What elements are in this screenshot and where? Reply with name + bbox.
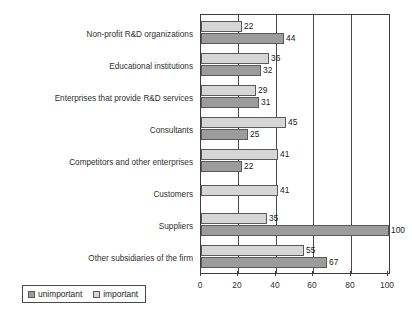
x-tick bbox=[350, 271, 351, 276]
bar-value-important: 55 bbox=[304, 245, 315, 256]
bar-value-important: 36 bbox=[269, 53, 280, 64]
legend-item-unimportant[interactable]: unimportant bbox=[28, 289, 82, 299]
bar-unimportant[interactable] bbox=[201, 65, 261, 76]
bar-value-unimportant: 100 bbox=[389, 225, 405, 236]
cut-off-caption-remnant bbox=[4, 316, 408, 322]
category-axis: Non-profit R&D organizations Educational… bbox=[0, 14, 197, 272]
category-label: Consultants bbox=[150, 126, 193, 136]
category-label: Non-profit R&D organizations bbox=[87, 30, 194, 40]
legend-label: important bbox=[103, 289, 138, 299]
bar-value-unimportant: 22 bbox=[242, 161, 253, 172]
bar-important[interactable] bbox=[201, 117, 286, 128]
category-label: Competitors and other enterprises bbox=[69, 158, 193, 168]
category-label: Suppliers bbox=[159, 222, 193, 232]
x-tick bbox=[312, 271, 313, 276]
x-tick-label: 40 bbox=[270, 280, 279, 290]
bar-unimportant[interactable] bbox=[201, 33, 284, 44]
bar-value-important: 22 bbox=[242, 21, 253, 32]
bar-unimportant[interactable] bbox=[201, 129, 248, 140]
bar-important[interactable] bbox=[201, 85, 256, 96]
light-gray-swatch-icon bbox=[93, 291, 100, 298]
bar-chart: Non-profit R&D organizations Educational… bbox=[0, 0, 412, 326]
bar-value-unimportant: 67 bbox=[327, 257, 338, 268]
category-label: Educational institutions bbox=[109, 62, 193, 72]
category-label: Other subsidiaries of the firm bbox=[88, 254, 193, 264]
x-axis-line bbox=[200, 273, 388, 274]
category-label: Customers bbox=[153, 190, 193, 200]
bar-value-unimportant: 32 bbox=[261, 65, 272, 76]
dark-gray-swatch-icon bbox=[28, 291, 35, 298]
legend-label: unimportant bbox=[38, 289, 82, 299]
bar-unimportant[interactable] bbox=[201, 257, 327, 268]
bar-unimportant[interactable] bbox=[201, 225, 389, 236]
x-tick bbox=[387, 271, 388, 276]
bar-value-unimportant: 25 bbox=[248, 129, 259, 140]
bar-value-unimportant: 44 bbox=[284, 33, 295, 44]
legend-item-important[interactable]: important bbox=[93, 289, 138, 299]
plot-area: 22 44 36 32 29 31 45 25 41 22 bbox=[200, 14, 390, 274]
bar-unimportant[interactable] bbox=[201, 97, 259, 108]
bar-value-important: 41 bbox=[278, 185, 289, 196]
bar-value-important: 35 bbox=[267, 213, 278, 224]
x-tick-label: 80 bbox=[345, 280, 354, 290]
bar-value-unimportant: 31 bbox=[259, 97, 270, 108]
x-tick-label: 20 bbox=[232, 280, 241, 290]
bar-important[interactable] bbox=[201, 149, 278, 160]
category-label: Enterprises that provide R&D services bbox=[55, 94, 193, 104]
bar-value-important: 45 bbox=[286, 117, 297, 128]
bar-important[interactable] bbox=[201, 53, 269, 64]
x-tick bbox=[237, 271, 238, 276]
bar-important[interactable] bbox=[201, 185, 278, 196]
x-tick-label: 60 bbox=[307, 280, 316, 290]
bar-value-important: 29 bbox=[256, 85, 267, 96]
x-tick-label: 100 bbox=[380, 280, 394, 290]
bar-important[interactable] bbox=[201, 245, 304, 256]
bar-important[interactable] bbox=[201, 21, 242, 32]
x-tick-label: 0 bbox=[198, 280, 203, 290]
x-tick bbox=[275, 271, 276, 276]
x-tick bbox=[200, 271, 201, 276]
legend: unimportant important bbox=[22, 285, 146, 303]
bar-unimportant[interactable] bbox=[201, 161, 242, 172]
bar-value-important: 41 bbox=[278, 149, 289, 160]
x-axis: 0 20 40 60 80 100 bbox=[200, 273, 388, 297]
bar-important[interactable] bbox=[201, 213, 267, 224]
